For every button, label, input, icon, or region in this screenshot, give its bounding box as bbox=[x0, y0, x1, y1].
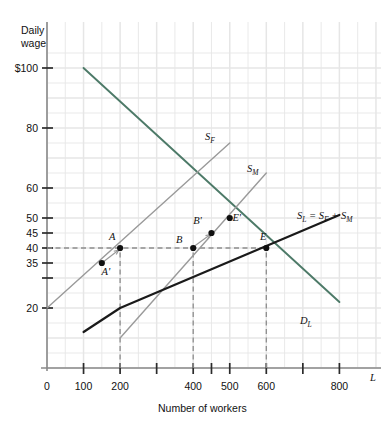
x-tick-label: 0 bbox=[44, 380, 50, 392]
y-tick-label: 80 bbox=[26, 122, 38, 134]
point-marker bbox=[190, 245, 196, 251]
y-tick-label: 45 bbox=[26, 227, 38, 239]
x-tick-label: 400 bbox=[184, 380, 202, 392]
point-label: B' bbox=[193, 215, 202, 226]
point-marker bbox=[263, 245, 269, 251]
point-label: A' bbox=[100, 266, 110, 277]
point-label: E' bbox=[231, 212, 241, 223]
x-tick-label: 200 bbox=[111, 380, 129, 392]
y-axis-title-line1: Daily bbox=[21, 24, 45, 36]
point-label: A bbox=[108, 231, 116, 242]
point-marker bbox=[208, 230, 214, 236]
x-axis-symbol: L bbox=[369, 372, 376, 383]
x-tick-label: 100 bbox=[75, 380, 93, 392]
y-tick-label: 35 bbox=[26, 257, 38, 269]
labor-market-chart: $10080605045403520 0100200400500600800 A… bbox=[0, 0, 385, 439]
x-tick-label: 500 bbox=[221, 380, 239, 392]
point-label: B bbox=[176, 234, 183, 245]
point-marker bbox=[117, 245, 123, 251]
x-tick-label: 800 bbox=[331, 380, 349, 392]
y-axis-title-line2: wage bbox=[20, 37, 46, 49]
x-tick-label: 600 bbox=[258, 380, 276, 392]
y-tick-label: 50 bbox=[26, 212, 38, 224]
x-axis-title: Number of workers bbox=[158, 402, 247, 414]
y-tick-label: 60 bbox=[26, 182, 38, 194]
y-tick-label: 20 bbox=[26, 302, 38, 314]
point-label: E bbox=[259, 231, 267, 242]
x-tick-0: 0 bbox=[44, 380, 50, 392]
y-tick-label: $100 bbox=[15, 62, 39, 74]
y-tick-label: 40 bbox=[26, 242, 38, 254]
figure-container: $10080605045403520 0100200400500600800 A… bbox=[0, 0, 385, 439]
